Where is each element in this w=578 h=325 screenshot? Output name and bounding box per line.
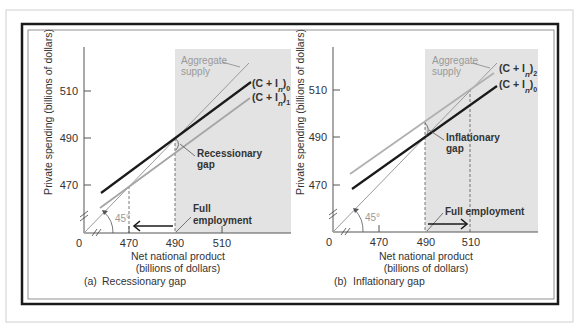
gap-label-line2: gap — [446, 143, 464, 154]
panel-caption: Recessionary gap — [102, 275, 186, 287]
angle-label: 45° — [365, 212, 380, 223]
figure: 510 490 470 0 470 490 510 Private spendi… — [0, 0, 578, 325]
panel-caption: Inflationary gap — [353, 275, 425, 287]
full-employment-label: Full employment — [445, 206, 525, 217]
x-tick-label: 490 — [166, 237, 184, 249]
x-tick-label: 490 — [417, 236, 435, 248]
angle-label: 45° — [115, 213, 130, 224]
y-axis-title: Private spending (billions of dollars) — [294, 29, 306, 195]
x-tick-label: 470 — [370, 236, 388, 248]
origin-label: 0 — [326, 236, 332, 248]
x-tick-label: 510 — [462, 236, 480, 248]
full-employment-label-line2: employment — [193, 215, 253, 226]
x-tick-label: 510 — [213, 237, 231, 249]
x-tick-label: 470 — [120, 237, 138, 249]
angle-arrowhead — [102, 210, 108, 215]
y-tick-label: 470 — [309, 179, 327, 191]
panel-a-recessionary-gap: 510 490 470 0 470 490 510 Private spendi… — [42, 29, 291, 287]
y-axis-title: Private spending (billions of dollars) — [42, 29, 54, 195]
y-tick-label: 510 — [60, 85, 78, 97]
aggregate-supply-label-line2: supply — [432, 66, 461, 77]
panel-caption-letter: (a) — [84, 275, 97, 287]
y-tick-label: 510 — [309, 84, 327, 96]
x-axis-title-line1: Net national product — [131, 250, 225, 262]
aggregate-supply-label-line1: Aggregate — [432, 55, 479, 66]
x-axis-title-line1: Net national product — [379, 250, 473, 262]
full-employment-label-line1: Full — [193, 203, 211, 214]
gap-label-line1: Recessionary — [197, 148, 262, 159]
aggregate-supply-label-line1: Aggregate — [181, 55, 228, 66]
angle-arc — [355, 210, 363, 232]
y-tick-label: 490 — [309, 131, 327, 143]
x-axis-title-line2: (billions of dollars) — [136, 262, 221, 274]
y-tick-label: 470 — [60, 179, 78, 191]
x-axis-title-line2: (billions of dollars) — [384, 262, 469, 274]
aggregate-supply-label-line2: supply — [181, 66, 210, 77]
angle-arc — [104, 212, 113, 233]
panel-b-inflationary-gap: 510 490 470 0 470 490 510 Private spendi… — [294, 29, 538, 287]
gap-label-line1: Inflationary — [446, 132, 500, 143]
panel-caption-letter: (b) — [334, 275, 347, 287]
origin-label: 0 — [76, 237, 82, 249]
y-tick-label: 490 — [60, 132, 78, 144]
gap-label-line2: gap — [197, 159, 215, 170]
